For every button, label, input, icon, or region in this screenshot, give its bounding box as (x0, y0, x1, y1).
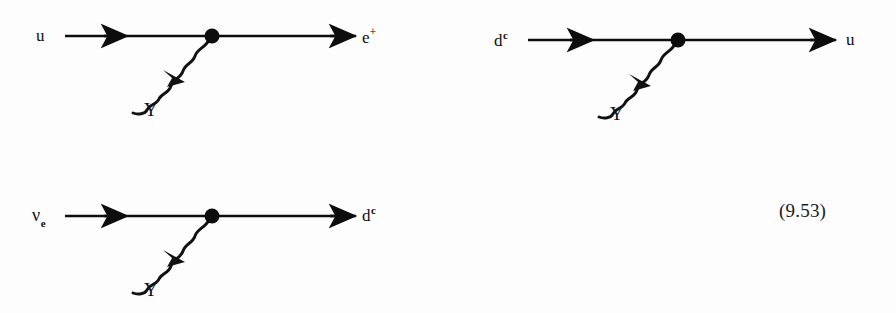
incoming-label-base: u (36, 26, 45, 45)
diagram-1-outgoing-label: e+ (362, 27, 376, 46)
outgoing-label-sup: + (370, 25, 377, 39)
outgoing-label-sup: c (371, 204, 376, 216)
interaction-vertex (671, 33, 686, 48)
diagram-2-canvas (460, 0, 890, 160)
outgoing-label-base: e (362, 28, 370, 47)
feynman-diagram-3: νe dc Υ (0, 168, 420, 313)
diagram-2-incoming-label: dc (494, 31, 507, 49)
feynman-diagram-2: dc u Υ (460, 0, 890, 160)
equation-number: (9.53) (779, 200, 826, 222)
outgoing-label-base: d (362, 206, 371, 225)
incoming-label-sup: c (503, 29, 508, 41)
diagram-1-incoming-label: u (36, 27, 45, 44)
incoming-label-base: ν (32, 205, 40, 225)
diagram-3-outgoing-label: dc (362, 206, 375, 224)
diagram-2-outgoing-label: u (846, 31, 855, 48)
diagram-1-canvas (0, 0, 420, 160)
interaction-vertex (205, 209, 220, 224)
figure-page: u e+ Υ dc u (0, 0, 896, 313)
diagram-2-photon-label: Υ (610, 104, 624, 123)
feynman-diagram-1: u e+ Υ (0, 0, 420, 160)
interaction-vertex (205, 29, 220, 44)
diagram-3-photon-label: Υ (144, 280, 158, 299)
diagram-3-incoming-label: νe (32, 206, 45, 227)
incoming-label-base: d (494, 31, 503, 50)
outgoing-label-base: u (846, 30, 855, 49)
diagram-3-canvas (0, 168, 420, 313)
incoming-label-sub: e (41, 217, 46, 229)
diagram-1-photon-label: Υ (144, 100, 158, 119)
